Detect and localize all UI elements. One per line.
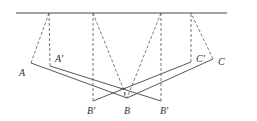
solid-segments [31,59,213,101]
label-A-prime: A' [54,53,64,64]
dash-A-top [31,13,49,63]
reflection-diagram: A A' B' B B' C' C [0,0,257,121]
label-C: C [218,56,225,67]
label-B-prime-left: B' [87,105,96,116]
label-B: B [124,105,130,116]
dash-A'-top [49,13,50,66]
label-B-prime-right: B' [160,105,169,116]
label-C-prime: C' [196,53,206,64]
label-A: A [18,67,26,78]
